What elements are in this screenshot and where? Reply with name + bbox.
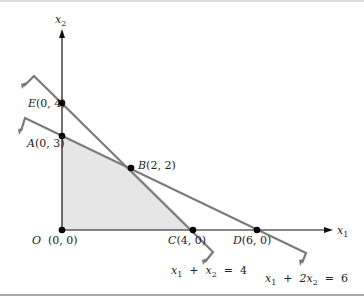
eq-rhs: 4	[240, 264, 247, 277]
point-O	[59, 227, 66, 234]
point-letter: B	[138, 159, 146, 172]
x1-axis-arrow-icon	[324, 227, 333, 233]
equation-label-c2: x1 + 2x2 = 6	[265, 273, 348, 284]
point-letter: A	[27, 137, 35, 150]
point-D	[254, 227, 261, 234]
eq-op: =	[224, 264, 233, 277]
label-point-O: O (0, 0)	[32, 235, 78, 246]
label-point-D: D(6, 0)	[233, 235, 271, 246]
point-C	[190, 227, 197, 234]
label-point-A: A(0, 3)	[27, 138, 65, 149]
x1-label-sub: 1	[343, 230, 348, 239]
eq-op: +	[283, 272, 292, 285]
point-letter: O	[32, 234, 41, 247]
label-point-C: C(4, 0)	[168, 235, 206, 246]
eq-sub: 1	[177, 270, 182, 279]
point-B	[128, 165, 135, 172]
equation-label-c1: x1 + x2 = 4	[171, 265, 247, 276]
label-point-E: E(0, 4)	[28, 98, 66, 109]
linear-program-diagram: x2 x1 E(0, 4) A(0, 3) B(2, 2) O (0, 0) C…	[0, 0, 364, 302]
x2-axis-label: x2	[55, 14, 66, 25]
feasible-region	[62, 136, 193, 230]
x2-label-sub: 2	[61, 19, 66, 28]
x2-axis-arrow-icon	[59, 29, 65, 38]
eq-op: +	[189, 264, 198, 277]
point-coords: (2, 2)	[146, 159, 176, 172]
eq-sub: 1	[271, 278, 276, 287]
point-coords: (0, 4)	[36, 97, 66, 110]
eq-rhs: 6	[341, 272, 348, 285]
point-coords: (0, 3)	[35, 137, 65, 150]
eq-sub: 2	[212, 270, 217, 279]
eq-op: =	[325, 272, 334, 285]
point-coords: (4, 0)	[176, 234, 206, 247]
arrow-head-icon	[18, 128, 23, 135]
arrow-head-icon	[21, 82, 27, 89]
x1-axis-label: x1	[337, 225, 348, 236]
eq-term: 2x	[300, 272, 313, 285]
eq-sub: 2	[313, 278, 318, 287]
point-coords: (6, 0)	[242, 234, 272, 247]
point-coords: (0, 0)	[48, 234, 78, 247]
point-letter: E	[28, 97, 36, 110]
label-point-B: B(2, 2)	[138, 160, 176, 171]
point-letter: D	[233, 234, 242, 247]
